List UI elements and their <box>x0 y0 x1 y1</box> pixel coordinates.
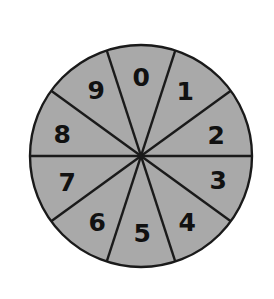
sector-label-1: 1 <box>177 77 194 106</box>
sector-label-6: 6 <box>89 208 106 237</box>
sector-label-7: 7 <box>59 168 76 197</box>
sector-label-3: 3 <box>210 166 227 195</box>
sector-label-5: 5 <box>134 219 151 248</box>
sector-label-4: 4 <box>179 208 196 237</box>
sector-label-8: 8 <box>54 120 71 149</box>
sector-label-9: 9 <box>88 76 105 105</box>
sector-label-2: 2 <box>208 121 225 150</box>
spinner-figure: 0 1 2 3 4 5 6 7 8 9 <box>0 0 274 299</box>
spinner-wheel[interactable]: 0 1 2 3 4 5 6 7 8 9 <box>0 0 274 299</box>
sector-label-0: 0 <box>133 63 150 92</box>
